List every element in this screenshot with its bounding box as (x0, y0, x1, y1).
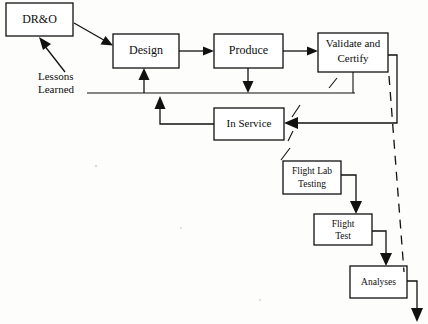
node-in-service-label: In Service (227, 117, 272, 129)
scan-speck (180, 227, 182, 229)
connector-dro-to-design (74, 23, 113, 46)
flight-lab-break-tick (281, 148, 290, 160)
node-design-label: Design (129, 43, 163, 57)
flowchart-canvas: DR&O Design Produce Validate and Certify… (0, 0, 428, 324)
node-validate-label-line1: Validate and (326, 37, 381, 49)
flowchart-diagram: DR&O Design Produce Validate and Certify… (0, 0, 428, 324)
in-service-break-tick-lower (288, 131, 293, 141)
connector-produce-to-validate (283, 47, 318, 56)
connector-lessons-to-dro (39, 37, 65, 72)
node-flight-test-label-line2: Test (335, 231, 351, 241)
node-validate-and-certify[interactable]: Validate and Certify (318, 33, 388, 72)
scan-speck (259, 299, 261, 301)
node-flight-lab-testing[interactable]: Flight Lab Testing (283, 161, 341, 194)
connector-bus-to-design (139, 68, 150, 93)
bus-break-tick (329, 78, 337, 88)
connector-produce-to-bus (243, 68, 254, 93)
connector-design-to-produce (179, 47, 214, 56)
node-in-service[interactable]: In Service (214, 108, 284, 140)
node-flight-lab-label-line1: Flight Lab (292, 166, 332, 176)
node-dro-label: DR&O (22, 12, 57, 26)
lessons-learned-label-line1: Lessons (38, 70, 73, 82)
node-analyses-label: Analyses (361, 277, 396, 287)
node-validate-label-line2: Certify (337, 52, 369, 64)
node-analyses[interactable]: Analyses (350, 266, 407, 298)
connector-in-service-to-design (155, 96, 215, 124)
node-dro[interactable]: DR&O (6, 3, 73, 36)
scan-speck (95, 165, 97, 167)
lessons-learned-label-line2: Learned (38, 83, 75, 95)
connector-flight-lab-to-flight-test (341, 175, 362, 214)
connector-analyses-output (407, 281, 423, 322)
node-produce[interactable]: Produce (214, 34, 283, 68)
node-design[interactable]: Design (113, 34, 179, 68)
node-flight-lab-label-line2: Testing (298, 179, 326, 189)
node-flight-test-label-line1: Flight (332, 219, 355, 229)
node-produce-label: Produce (229, 43, 268, 57)
connector-flight-test-to-analyses (372, 231, 392, 266)
node-flight-test[interactable]: Flight Test (314, 214, 372, 245)
in-service-break-tick-upper (292, 105, 300, 117)
